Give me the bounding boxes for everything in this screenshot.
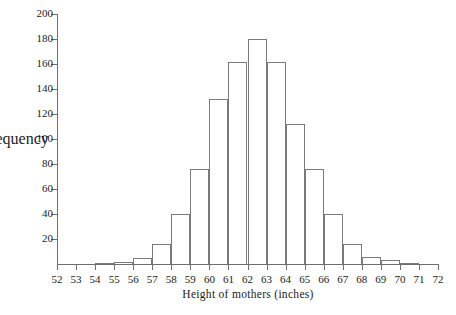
y-tick-label: 180 bbox=[37, 31, 54, 46]
x-axis-label: Height of mothers (inches) bbox=[57, 288, 439, 300]
histogram-bar bbox=[152, 244, 171, 264]
x-tick-label: 57 bbox=[147, 272, 158, 286]
x-tick-mark bbox=[305, 264, 306, 270]
x-tick-label: 66 bbox=[318, 272, 329, 286]
histogram-bar bbox=[286, 124, 305, 264]
x-tick-label: 68 bbox=[356, 272, 367, 286]
x-tick-label: 62 bbox=[242, 272, 253, 286]
x-tick-label: 55 bbox=[109, 272, 120, 286]
y-tick-label: 20 bbox=[42, 231, 53, 246]
bars-group bbox=[57, 14, 438, 264]
x-tick-label: 65 bbox=[299, 272, 310, 286]
y-tick-label: 140 bbox=[37, 81, 54, 96]
y-tick-label: 80 bbox=[42, 156, 53, 171]
x-tick-mark bbox=[286, 264, 287, 270]
x-tick-label: 53 bbox=[71, 272, 82, 286]
histogram-bar bbox=[305, 169, 324, 264]
x-tick-label: 61 bbox=[223, 272, 234, 286]
x-tick-label: 70 bbox=[394, 272, 405, 286]
x-tick-mark bbox=[95, 264, 96, 270]
y-tick-label: 160 bbox=[37, 56, 54, 71]
x-tick-mark bbox=[400, 264, 401, 270]
x-tick-label: 63 bbox=[261, 272, 272, 286]
x-tick-label: 72 bbox=[433, 272, 444, 286]
x-tick-mark bbox=[228, 264, 229, 270]
x-tick-label: 59 bbox=[185, 272, 196, 286]
x-tick-mark bbox=[171, 264, 172, 270]
x-tick-mark bbox=[57, 264, 58, 270]
x-tick-mark bbox=[324, 264, 325, 270]
histogram-bar bbox=[400, 263, 419, 264]
histogram-bar bbox=[133, 258, 152, 264]
y-tick-label: 40 bbox=[42, 206, 53, 221]
x-tick-mark bbox=[438, 264, 439, 270]
y-tick-label: 200 bbox=[37, 6, 54, 21]
y-tick-label: 100 bbox=[37, 131, 54, 146]
y-axis-label: Frequency bbox=[6, 14, 24, 264]
x-tick-mark bbox=[133, 264, 134, 270]
x-tick-mark bbox=[362, 264, 363, 270]
x-tick-mark bbox=[209, 264, 210, 270]
histogram-bar bbox=[248, 39, 267, 264]
y-tick-label: 60 bbox=[42, 181, 53, 196]
histogram-bar bbox=[114, 262, 133, 265]
x-tick-label: 58 bbox=[166, 272, 177, 286]
x-tick-label: 54 bbox=[90, 272, 101, 286]
x-tick-mark bbox=[248, 264, 249, 270]
x-tick-label: 69 bbox=[375, 272, 386, 286]
histogram-bar bbox=[95, 263, 114, 264]
x-tick-mark bbox=[114, 264, 115, 270]
y-tick-label: 120 bbox=[37, 106, 54, 121]
histogram-bar bbox=[190, 169, 209, 264]
x-tick-mark bbox=[419, 264, 420, 270]
x-tick-mark bbox=[343, 264, 344, 270]
histogram-bar bbox=[209, 99, 228, 264]
x-tick-label: 67 bbox=[337, 272, 348, 286]
x-tick-label: 52 bbox=[52, 272, 63, 286]
x-tick-label: 64 bbox=[280, 272, 291, 286]
histogram-bar bbox=[171, 214, 190, 264]
histogram-bar bbox=[267, 62, 286, 265]
histogram-bar bbox=[228, 62, 247, 265]
histogram-bar bbox=[343, 244, 362, 264]
x-tick-mark bbox=[381, 264, 382, 270]
x-tick-mark bbox=[152, 264, 153, 270]
histogram-bar bbox=[324, 214, 343, 264]
histogram-figure: Frequency 20406080100120140160180200 Hei… bbox=[0, 0, 456, 315]
x-tick-mark bbox=[76, 264, 77, 270]
x-tick-label: 71 bbox=[413, 272, 424, 286]
x-tick-label: 60 bbox=[204, 272, 215, 286]
histogram-bar bbox=[381, 260, 400, 264]
histogram-bar bbox=[362, 257, 381, 265]
x-tick-mark bbox=[267, 264, 268, 270]
x-tick-label: 56 bbox=[128, 272, 139, 286]
x-tick-mark bbox=[190, 264, 191, 270]
